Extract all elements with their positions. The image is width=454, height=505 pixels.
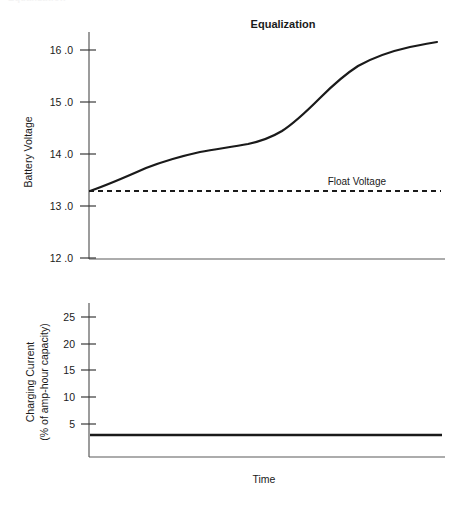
top-panel-battery-voltage: 16 .0 15 .0 14 .0 13 .0 12 .0 Battery Vo… bbox=[22, 18, 445, 264]
clipped-header-text: Equalization bbox=[8, 0, 66, 3]
battery-voltage-curve bbox=[90, 42, 437, 191]
top-panel-tick-label-16: 16 .0 bbox=[50, 44, 74, 56]
dual-panel-line-chart: 16 .0 15 .0 14 .0 13 .0 12 .0 Battery Vo… bbox=[0, 0, 454, 505]
bottom-panel-charging-current: 25 20 15 10 5 Charging Current (% of amp… bbox=[24, 303, 445, 485]
bottom-panel-tick-label-25: 25 bbox=[63, 311, 75, 323]
bottom-panel-y-axis-title-line2: (% of amp-hour capacity) bbox=[38, 323, 50, 440]
bottom-panel-tick-label-15: 15 bbox=[63, 364, 75, 376]
bottom-panel-x-axis-title: Time bbox=[253, 473, 276, 485]
top-panel-tick-label-12: 12 .0 bbox=[50, 252, 74, 264]
float-voltage-annotation: Float Voltage bbox=[328, 176, 387, 187]
top-panel-tick-label-13: 13 .0 bbox=[50, 200, 74, 212]
bottom-panel-tick-label-20: 20 bbox=[63, 338, 75, 350]
bottom-panel-y-axis-title-line1: Charging Current bbox=[24, 342, 36, 423]
chart-title: Equalization bbox=[251, 18, 316, 30]
chart-figure: Equalization 16 .0 15 .0 14 .0 13 .0 12 … bbox=[0, 0, 454, 505]
top-panel-tick-label-15: 15 .0 bbox=[50, 96, 74, 108]
bottom-panel-tick-label-10: 10 bbox=[63, 391, 75, 403]
bottom-panel-tick-label-5: 5 bbox=[69, 418, 75, 430]
top-panel-tick-label-14: 14 .0 bbox=[50, 148, 74, 160]
top-panel-y-axis-title: Battery Voltage bbox=[22, 116, 34, 187]
